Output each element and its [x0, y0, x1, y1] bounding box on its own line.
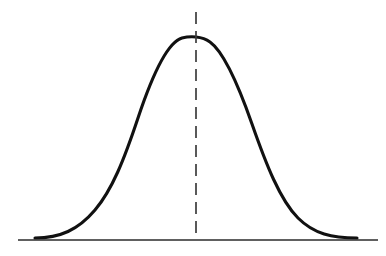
bell-curve-figure [0, 0, 386, 256]
plot-background [0, 0, 386, 256]
chart-canvas [0, 0, 386, 256]
